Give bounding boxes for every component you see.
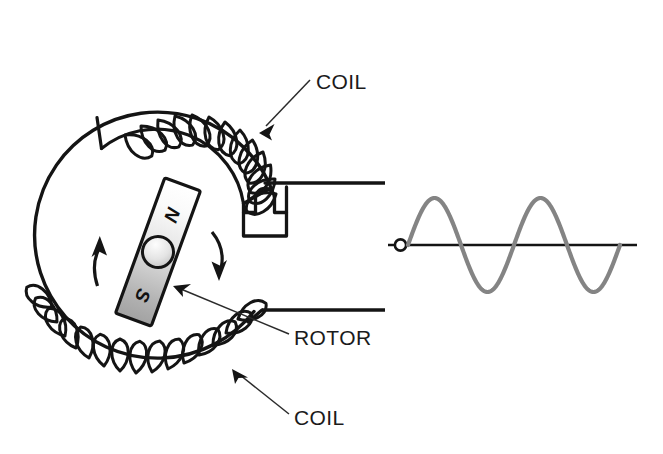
coil-top-leader-line	[266, 80, 310, 126]
coil-bottom-label: COIL	[294, 406, 345, 429]
coil-top-arrowhead	[259, 124, 275, 141]
coil-top-label: COIL	[316, 70, 367, 93]
rotation-arrow-left-head	[92, 236, 108, 257]
diagram-canvas: N S COIL ROTOR COIL	[0, 0, 663, 454]
rotation-arrow-right-shaft	[212, 232, 222, 266]
rotor-label: ROTOR	[294, 326, 371, 349]
rotation-arrow-right-head	[212, 260, 228, 281]
top-coil-assembly	[97, 111, 385, 236]
coil-bottom-arrowhead	[232, 369, 248, 384]
output-waveform	[388, 198, 637, 292]
top-terminal-body	[244, 213, 287, 237]
waveform-origin-marker	[395, 239, 406, 250]
rotor-arrowhead	[173, 284, 191, 297]
top-coil-left-cap	[97, 118, 102, 149]
rotation-arrow-left-shaft	[94, 250, 98, 286]
coil-bottom-leader-line	[240, 375, 289, 414]
rotor-magnet: N S	[116, 178, 201, 326]
generator-diagram: N S COIL ROTOR COIL	[0, 0, 663, 454]
